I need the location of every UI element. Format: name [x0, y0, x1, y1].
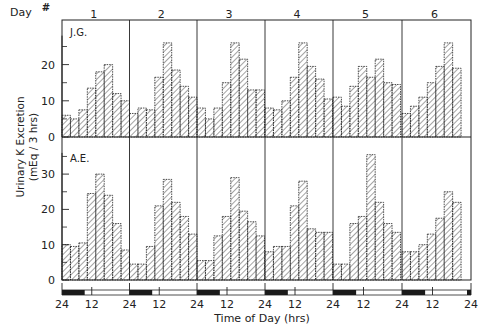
potassium-excretion-chart: Day#123456J.G.01020A.E.01020302412241224…: [0, 0, 492, 336]
bar-jg-day4: [282, 101, 290, 137]
dark-period-block: [467, 290, 471, 295]
bar-ae-day5: [358, 216, 366, 280]
bar-jg-day5: [367, 77, 375, 137]
bar-jg-day2: [180, 86, 188, 137]
bar-jg-day3: [256, 90, 264, 137]
bar-ae-day2: [155, 206, 163, 280]
bar-jg-day4: [316, 79, 324, 137]
bar-ae-day1: [87, 194, 95, 280]
bar-jg-day5: [392, 85, 400, 137]
bar-ae-day3: [205, 261, 213, 280]
bar-ae-day3: [214, 236, 222, 280]
bar-ae-day5: [375, 202, 383, 280]
bar-jg-day4: [273, 110, 281, 137]
bar-jg-day5: [350, 86, 358, 137]
x-tick-label: 12: [85, 298, 99, 311]
bar-ae-day1: [79, 243, 87, 280]
bar-jg-day1: [87, 88, 95, 137]
bar-jg-day1: [113, 94, 121, 137]
bar-jg-day6: [427, 83, 435, 137]
bar-ae-day2: [163, 179, 171, 280]
y-tick-label: 30: [41, 168, 55, 181]
bar-jg-day1: [70, 119, 78, 137]
bar-ae-day5: [333, 264, 341, 280]
bar-ae-day1: [121, 250, 129, 280]
bar-jg-day2: [138, 108, 146, 137]
day-label-5: 5: [362, 8, 369, 21]
bar-ae-day6: [427, 234, 435, 280]
bar-ae-day6: [419, 245, 427, 280]
y-tick-label: 20: [41, 203, 55, 216]
bar-jg-day5: [341, 106, 349, 137]
bar-jg-day5: [333, 97, 341, 137]
bar-jg-day6: [419, 97, 427, 137]
bar-jg-day2: [155, 77, 163, 137]
dark-period-block: [197, 290, 220, 295]
x-tick-label: 12: [288, 298, 302, 311]
x-tick-label: 24: [464, 298, 478, 311]
day-label-4: 4: [294, 8, 301, 21]
bar-jg-day1: [121, 101, 129, 137]
bar-jg-day1: [104, 65, 112, 137]
bar-jg-day3: [239, 59, 247, 137]
bar-ae-day1: [96, 174, 104, 280]
bar-jg-day6: [402, 113, 410, 137]
dark-period-block: [265, 290, 288, 295]
bar-jg-day4: [307, 66, 315, 137]
x-tick-label: 24: [123, 298, 137, 311]
bar-ae-day3: [239, 211, 247, 280]
bar-ae-day4: [265, 252, 273, 280]
x-tick-label: 24: [326, 298, 340, 311]
day-label-6: 6: [431, 8, 438, 21]
bar-ae-day2: [130, 264, 138, 280]
bar-ae-day6: [402, 252, 410, 280]
x-tick-label: 12: [357, 298, 371, 311]
bar-jg-day3: [231, 43, 239, 137]
bar-jg-day3: [248, 90, 256, 137]
chart-plot-area: Day#123456J.G.01020A.E.01020302412241224…: [10, 2, 478, 325]
bar-ae-day5: [367, 155, 375, 280]
bar-jg-day3: [214, 108, 222, 137]
bar-jg-day2: [189, 97, 197, 137]
x-tick-label: 24: [55, 298, 69, 311]
bar-ae-day3: [248, 222, 256, 280]
bar-ae-day5: [392, 232, 400, 280]
x-tick-label: 24: [395, 298, 409, 311]
bar-ae-day5: [384, 224, 392, 280]
y-axis-units-label: (mEq / 3 hrs): [27, 113, 39, 181]
bar-ae-day4: [307, 229, 315, 280]
chart-frame: [62, 20, 471, 280]
bar-jg-day3: [205, 119, 213, 137]
y-tick-label: 20: [41, 59, 55, 72]
bar-jg-day5: [375, 59, 383, 137]
x-axis-label: Time of Day (hrs): [213, 312, 310, 325]
bar-ae-day4: [299, 181, 307, 280]
bar-ae-day4: [282, 246, 290, 280]
dark-period-block: [130, 290, 153, 295]
bar-ae-day6: [453, 202, 461, 280]
bar-ae-day6: [436, 218, 444, 280]
bar-ae-day3: [231, 178, 239, 280]
bar-ae-day6: [444, 192, 452, 280]
bar-jg-day4: [290, 77, 298, 137]
bar-ae-day4: [290, 206, 298, 280]
bar-jg-day4: [265, 108, 273, 137]
day-number-mark: #: [42, 2, 50, 13]
bar-ae-day4: [273, 246, 281, 280]
bar-ae-day2: [146, 246, 154, 280]
y-tick-label: 10: [41, 95, 55, 108]
dark-period-block: [402, 290, 425, 295]
bar-jg-day4: [299, 43, 307, 137]
x-tick-label: 12: [152, 298, 166, 311]
y-axis-label: Urinary K Excretion: [14, 96, 26, 197]
y-tick-label: 10: [41, 239, 55, 252]
bar-ae-day1: [104, 195, 112, 280]
bar-ae-day2: [180, 216, 188, 280]
bar-jg-day1: [79, 110, 87, 137]
bar-ae-day4: [324, 232, 332, 280]
dark-period-block: [62, 290, 85, 295]
bar-ae-day5: [341, 264, 349, 280]
y-tick-label: 0: [48, 274, 55, 287]
x-tick-label: 24: [190, 298, 204, 311]
bar-ae-day3: [256, 236, 264, 280]
